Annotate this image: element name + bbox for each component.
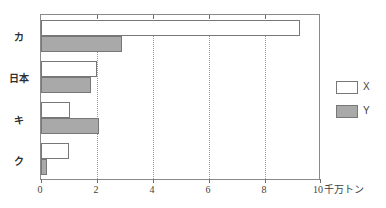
- bar-x-1: [41, 61, 97, 77]
- xtick-label-6: 6: [196, 184, 220, 196]
- bars-layer: [41, 15, 319, 179]
- bar-y-0: [41, 36, 122, 52]
- legend-item-y: Y: [336, 102, 382, 120]
- bar-chart: カ 日本 キ ク 0 2 4 6 8 10 千万トン X: [0, 0, 386, 208]
- category-label-1: 日本: [2, 73, 36, 85]
- bar-x-2: [41, 102, 70, 118]
- bar-x-3: [41, 143, 69, 159]
- bar-x-0: [41, 20, 300, 36]
- category-label-3: ク: [2, 156, 36, 168]
- xtick-label-4: 4: [140, 184, 164, 196]
- legend-swatch-y-icon: [336, 105, 358, 118]
- x-axis-unit-label: 千万トン: [324, 183, 364, 196]
- bar-y-3: [41, 159, 47, 175]
- tick-bottom-2: [97, 179, 98, 183]
- category-label-0: カ: [2, 32, 36, 44]
- tick-bottom-4: [153, 179, 154, 183]
- legend-swatch-x-icon: [336, 81, 358, 94]
- tick-bottom-8: [265, 179, 266, 183]
- legend-label-x: X: [363, 81, 370, 93]
- legend-item-x: X: [336, 78, 382, 96]
- legend-label-y: Y: [363, 105, 370, 117]
- bar-y-1: [41, 77, 91, 93]
- xtick-label-2: 2: [84, 184, 108, 196]
- bar-y-2: [41, 118, 99, 134]
- xtick-label-8: 8: [252, 184, 276, 196]
- category-label-2: キ: [2, 115, 36, 127]
- chart-legend: X Y: [336, 78, 382, 126]
- tick-bottom-6: [209, 179, 210, 183]
- xtick-label-0: 0: [28, 184, 52, 196]
- plot-area: [40, 14, 320, 180]
- tick-bottom-0: [41, 179, 42, 183]
- tick-bottom-10: [320, 179, 321, 183]
